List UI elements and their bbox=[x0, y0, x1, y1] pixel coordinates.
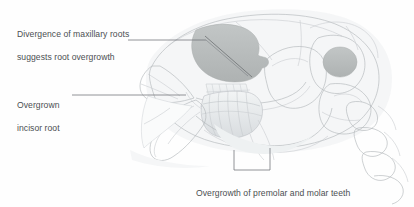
figure-panel: Divergence of maxillary roots suggests r… bbox=[0, 0, 414, 207]
annotation-maxillary-roots: Divergence of maxillary roots suggests r… bbox=[17, 17, 177, 75]
annotation-line-1: Overgrown bbox=[17, 100, 107, 112]
annotation-line-1: Overgrowth of premolar and molar teeth bbox=[196, 188, 411, 200]
annotation-premolar-molar-overgrowth: Overgrowth of premolar and molar teeth c… bbox=[196, 176, 411, 207]
annotation-line-1: Divergence of maxillary roots bbox=[17, 29, 177, 41]
annotation-line-2: incisor root bbox=[17, 123, 107, 135]
annotation-incisor-root: Overgrown incisor root bbox=[17, 88, 107, 146]
premolar-molar-row-lower bbox=[201, 91, 262, 138]
background-wash bbox=[130, 150, 210, 168]
external-auditory-meatus bbox=[323, 47, 357, 77]
skull-silhouette-shadow bbox=[146, 9, 392, 153]
annotation-line-2: suggests root overgrowth bbox=[17, 52, 177, 64]
